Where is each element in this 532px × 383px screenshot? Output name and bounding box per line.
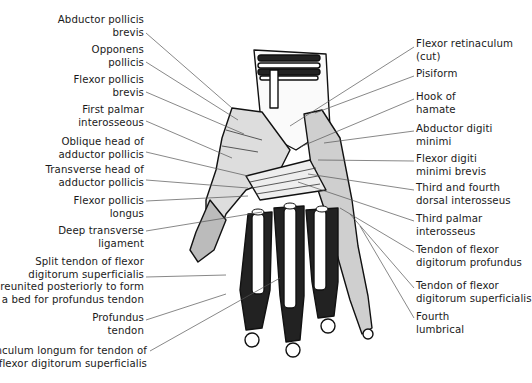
label-line: flexor digitorum superficialis [0,358,147,371]
label-line: lumbrical [416,324,464,337]
label-line: Pisiform [416,68,457,81]
label-line: Abductor digiti [416,123,493,136]
label-line: longus [73,208,144,221]
label-line: tendon [92,325,144,338]
leader-pisiform [315,76,414,113]
hand-drawing [190,50,373,357]
label-line: reunited posteriorly to form [0,281,144,294]
label-profundus-tendon: Profundustendon [92,312,144,337]
label-vinculum-longum: Vinculum longum for tendon offlexor digi… [0,345,147,370]
label-line: Flexor pollicis [73,195,144,208]
label-flexor-retinaculum-cut: Flexor retinaculum(cut) [416,38,513,63]
label-opponens-pollicis: Opponenspollicis [92,44,144,69]
label-transverse-head-adductor-pollicis: Transverse head ofadductor pollicis [45,164,144,189]
label-line: hamate [416,104,456,117]
label-line: Profundus [92,312,144,325]
label-line: First palmar [78,104,144,117]
leader-split-tendon-fds [146,275,226,277]
label-line: digitorum superficialis [416,293,532,306]
label-line: Split tendon of flexor [0,256,144,269]
label-line: Deep transverse [58,225,144,238]
label-line: Third palmar [416,213,482,226]
label-line: Vinculum longum for tendon of [0,345,147,358]
label-line: interosseous [78,117,144,130]
label-line: adductor pollicis [58,149,144,162]
label-line: minimi brevis [416,166,486,179]
label-third-palmar-interosseus: Third palmarinterosseus [416,213,482,238]
label-line: adductor pollicis [45,177,144,190]
label-line: Tendon of flexor [416,280,532,293]
label-line: Abductor pollicis [58,14,144,27]
label-tendon-fdp: Tendon of flexordigitorum profundus [416,244,522,269]
label-line: (cut) [416,51,513,64]
label-line: digitorum superficialis [0,269,144,282]
label-line: Opponens [92,44,144,57]
label-line: Third and fourth [416,182,511,195]
leader-profundus-tendon [146,294,226,320]
label-line: pollicis [92,57,144,70]
label-split-tendon-fds: Split tendon of flexordigitorum superfic… [0,256,144,306]
label-line: digitorum profundus [416,257,522,270]
label-line: ligament [58,238,144,251]
leader-first-palmar-interosseous [146,121,232,158]
label-oblique-head-adductor-pollicis: Oblique head ofadductor pollicis [58,136,144,161]
label-hook-of-hamate: Hook ofhamate [416,91,456,116]
label-third-fourth-dorsal-interosseus: Third and fourthdorsal interosseus [416,182,511,207]
label-line: Transverse head of [45,164,144,177]
label-pisiform: Pisiform [416,68,457,81]
label-line: Flexor pollicis [73,74,144,87]
label-line: Hook of [416,91,456,104]
label-line: Flexor digiti [416,153,486,166]
label-line: Fourth [416,311,464,324]
label-line: Oblique head of [58,136,144,149]
label-line: Flexor retinaculum [416,38,513,51]
label-line: dorsal interosseus [416,195,511,208]
label-line: minimi [416,136,493,149]
label-first-palmar-interosseous: First palmarinterosseous [78,104,144,129]
label-abductor-pollicis-brevis: Abductor pollicisbrevis [58,14,144,39]
label-line: interosseus [416,226,482,239]
label-flexor-pollicis-brevis: Flexor pollicisbrevis [73,74,144,99]
label-line: Tendon of flexor [416,244,522,257]
label-flexor-digiti-minimi-brevis: Flexor digitiminimi brevis [416,153,486,178]
label-deep-transverse-ligament: Deep transverseligament [58,225,144,250]
label-tendon-fds: Tendon of flexordigitorum superficialis [416,280,532,305]
leader-opponens-pollicis [146,62,238,120]
label-line: a bed for profundus tendon [0,294,144,307]
label-line: brevis [73,87,144,100]
label-fourth-lumbrical: Fourthlumbrical [416,311,464,336]
label-line: brevis [58,27,144,40]
label-abductor-digiti-minimi: Abductor digitiminimi [416,123,493,148]
label-flexor-pollicis-longus: Flexor pollicislongus [73,195,144,220]
